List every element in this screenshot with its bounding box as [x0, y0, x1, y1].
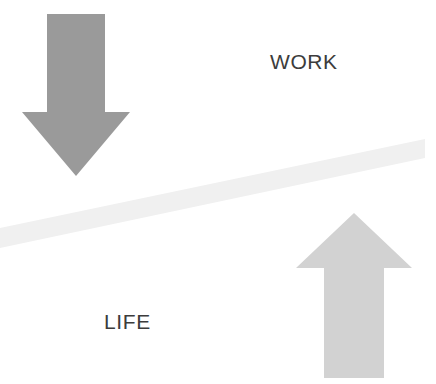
work-life-balance-diagram: WORK LIFE	[0, 0, 436, 384]
seesaw-scene	[0, 0, 436, 384]
life-up-arrow-icon	[296, 213, 412, 378]
work-down-arrow-icon	[22, 14, 130, 176]
life-label: LIFE	[104, 311, 151, 332]
work-label: WORK	[270, 51, 338, 72]
